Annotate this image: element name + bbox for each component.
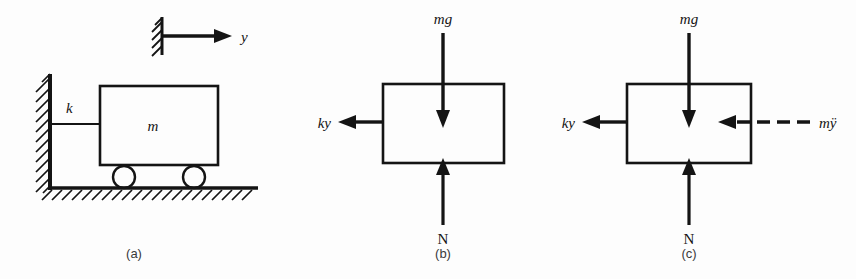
label-mg-b: mg: [434, 11, 453, 27]
inertia-arrow-head-c: [718, 115, 736, 129]
panel-b: mg ky N (b): [318, 11, 504, 261]
caption-b: (b): [435, 246, 451, 261]
label-y: y: [239, 29, 248, 45]
N-arrow-head-b: [436, 158, 450, 175]
force-ky-c: ky: [562, 115, 627, 131]
mg-arrow-head-b: [436, 110, 450, 128]
force-N-b: N: [436, 158, 450, 247]
N-arrow-head-c: [682, 158, 696, 175]
label-N-c: N: [684, 231, 695, 247]
force-ky-b: ky: [318, 115, 383, 131]
mechanics-figure: y: [0, 0, 856, 279]
coordinate-datum-y: y: [152, 17, 248, 56]
force-mg-c: mg: [680, 11, 699, 128]
caption-c: (c): [681, 246, 696, 261]
wheel-left: [113, 166, 135, 188]
wheel-right: [183, 166, 205, 188]
label-m: m: [148, 118, 159, 134]
panel-a: y: [36, 17, 258, 261]
panel-c: mg ky N mÿ (c): [562, 11, 837, 261]
ground: [42, 188, 258, 200]
label-inertia-c: mÿ: [819, 115, 837, 131]
ky-arrow-head-b: [338, 115, 356, 129]
wall-hatching: [36, 74, 50, 193]
force-mg-b: mg: [434, 11, 453, 128]
ground-hatching: [42, 190, 252, 200]
caption-a: (a): [126, 246, 142, 261]
y-arrow-head: [214, 29, 232, 43]
wall: [36, 74, 50, 193]
figure-canvas: y: [0, 0, 856, 279]
label-ky-b: ky: [318, 115, 332, 131]
force-N-c: N: [682, 158, 696, 247]
cart-body: [100, 86, 218, 165]
force-inertia-c: mÿ: [718, 115, 837, 131]
label-k: k: [66, 100, 73, 116]
ky-arrow-head-c: [582, 115, 600, 129]
label-N-b: N: [438, 231, 449, 247]
label-ky-c: ky: [562, 115, 576, 131]
label-mg-c: mg: [680, 11, 699, 27]
mg-arrow-head-c: [682, 110, 696, 128]
